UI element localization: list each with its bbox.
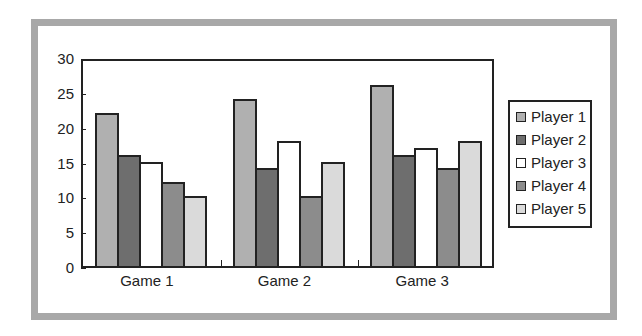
bar-player-1-game-3 bbox=[370, 85, 394, 266]
legend-item: Player 5 bbox=[516, 200, 586, 217]
legend-swatch-icon bbox=[516, 204, 526, 214]
legend-label: Player 5 bbox=[531, 200, 586, 217]
bar-player-5-game-1 bbox=[183, 196, 207, 266]
x-tick-label: Game 1 bbox=[87, 272, 207, 289]
legend-item: Player 2 bbox=[516, 131, 586, 148]
bar-player-5-game-2 bbox=[321, 162, 345, 267]
y-tick-label: 5 bbox=[44, 224, 74, 241]
legend-label: Player 2 bbox=[531, 131, 586, 148]
y-tick-label: 15 bbox=[44, 155, 74, 172]
bar-player-3-game-3 bbox=[414, 148, 438, 266]
bar-player-1-game-1 bbox=[95, 113, 119, 266]
legend: Player 1Player 2Player 3Player 4Player 5 bbox=[508, 100, 592, 228]
y-tick-label: 30 bbox=[44, 50, 74, 67]
legend-item: Player 3 bbox=[516, 154, 586, 171]
y-tick-label: 0 bbox=[44, 259, 74, 276]
legend-item: Player 1 bbox=[516, 108, 586, 125]
bar-player-3-game-2 bbox=[277, 141, 301, 266]
legend-swatch-icon bbox=[516, 112, 526, 122]
legend-item: Player 4 bbox=[516, 177, 586, 194]
x-tick-label: Game 3 bbox=[362, 272, 482, 289]
x-tick bbox=[358, 260, 359, 266]
legend-swatch-icon bbox=[516, 181, 526, 191]
bar-player-4-game-1 bbox=[161, 182, 185, 266]
bar-player-3-game-1 bbox=[139, 162, 163, 267]
legend-swatch-icon bbox=[516, 135, 526, 145]
x-tick-label: Game 2 bbox=[225, 272, 345, 289]
bar-player-5-game-3 bbox=[458, 141, 482, 266]
legend-label: Player 4 bbox=[531, 177, 586, 194]
y-tick-label: 10 bbox=[44, 189, 74, 206]
x-tick bbox=[221, 260, 222, 266]
legend-label: Player 3 bbox=[531, 154, 586, 171]
plot-area bbox=[81, 59, 494, 268]
y-tick-label: 25 bbox=[44, 85, 74, 102]
legend-label: Player 1 bbox=[531, 108, 586, 125]
bar-player-2-game-1 bbox=[117, 155, 141, 266]
y-tick-label: 20 bbox=[44, 120, 74, 137]
y-tick bbox=[81, 268, 86, 269]
bar-player-2-game-3 bbox=[392, 155, 416, 266]
legend-swatch-icon bbox=[516, 158, 526, 168]
bar-player-4-game-2 bbox=[299, 196, 323, 266]
bar-player-4-game-3 bbox=[436, 168, 460, 266]
bar-player-1-game-2 bbox=[233, 99, 257, 266]
bar-player-2-game-2 bbox=[255, 168, 279, 266]
